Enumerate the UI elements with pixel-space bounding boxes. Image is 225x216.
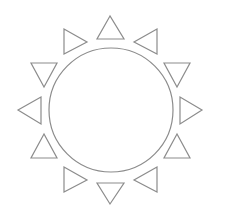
sun-icon <box>0 0 225 216</box>
